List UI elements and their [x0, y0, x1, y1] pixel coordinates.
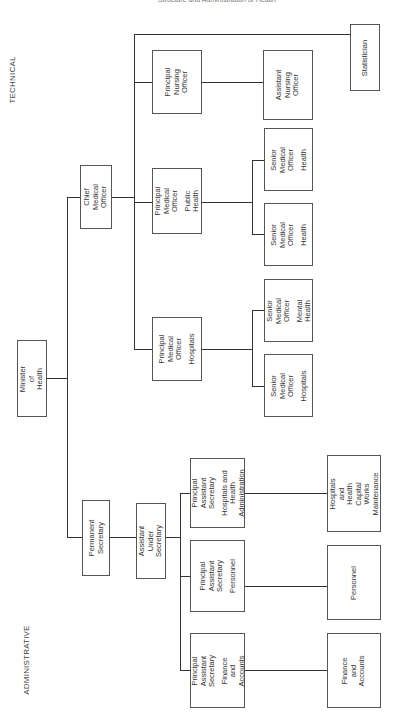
connector [252, 234, 264, 235]
node-pas-hospitals-health-administration: Principal Assistant SecretaryHospitals a… [190, 458, 245, 528]
connector [112, 197, 134, 198]
node-personnel: Personnel [327, 545, 381, 620]
connector [180, 576, 190, 577]
node-permanent-secretary: Permanent Secretary [82, 500, 110, 576]
connector [110, 537, 136, 538]
connector [134, 82, 152, 83]
node-assistant-under-secretary: Assistant Under Secretary [136, 503, 166, 579]
connector [67, 197, 68, 538]
connector [202, 82, 263, 83]
connector [166, 537, 180, 538]
connector [134, 202, 152, 203]
node-finance-and-accounts: Finance and Accounts [327, 633, 381, 708]
node-smo-health-2: Senior Medical OfficerHealth [264, 203, 313, 266]
connector [134, 349, 152, 350]
section-label-administrative: ADMINISTRATIVE [22, 625, 31, 694]
connector [245, 586, 327, 587]
connector [245, 670, 327, 671]
connector [202, 202, 252, 203]
node-principal-nursing-officer: Principal Nursing Officer [152, 50, 202, 114]
node-smo-mental-health: Senior Medical OfficerMental Health [264, 279, 313, 342]
page-header-cut: Structure and Administration of Health [112, 0, 322, 4]
node-pas-personnel: Principal Assistant SecretaryPersonnel [190, 540, 245, 612]
connector [180, 493, 181, 671]
connector [252, 160, 264, 161]
connector [252, 160, 253, 234]
connector [252, 310, 264, 311]
connector [252, 310, 253, 386]
node-capital-works-maintenance: Hospitals and Health Capital Works Maint… [327, 455, 381, 532]
node-minister-of-health: Minister of Health [17, 340, 47, 417]
connector [180, 493, 190, 494]
node-pmo-public-health: Principal Medical OfficerPublic Health [152, 168, 202, 234]
node-pas-finance-accounts: Principal Assistant SecretaryFinance and… [190, 633, 245, 708]
connector [252, 386, 264, 387]
node-statistician: Statistician [350, 24, 380, 91]
node-pmo-hospitals: Principal Medical OfficerHospitals [152, 317, 202, 381]
node-assistant-nursing-officer: Assistant Nursing Officer [263, 50, 313, 120]
connector [245, 493, 327, 494]
connector [67, 197, 80, 198]
node-smo-health-1: Senior Medical OfficerHealth [264, 128, 313, 191]
node-chief-medical-officer: Chief Medical Officer [80, 165, 112, 229]
connector [47, 378, 67, 379]
node-smo-hospitals: Senior Medical OfficerHospitals [264, 354, 313, 417]
section-label-technical: TECHNICAL [8, 56, 17, 103]
connector [180, 670, 190, 671]
connector [67, 537, 82, 538]
connector [202, 349, 252, 350]
connector [134, 34, 350, 35]
